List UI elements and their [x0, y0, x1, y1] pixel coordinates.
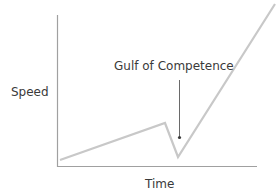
annotation-label: Gulf of Competence — [114, 60, 234, 72]
x-axis-label: Time — [145, 178, 174, 190]
speed-line — [60, 4, 275, 160]
annotation-dot — [178, 136, 181, 139]
y-axis-label: Speed — [11, 86, 49, 98]
